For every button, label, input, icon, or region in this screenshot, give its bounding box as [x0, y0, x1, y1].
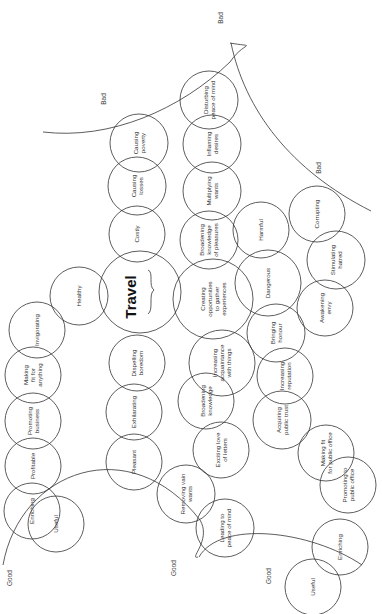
node-label: Useful — [309, 578, 316, 596]
region-label-bad-right: Bad — [315, 162, 322, 174]
node-pleasant: Pleasant — [106, 434, 162, 490]
node-label: Healthy — [75, 285, 82, 307]
node-label: Dispellingboredom — [130, 349, 144, 376]
center-circle — [99, 251, 181, 333]
node-useful-left: Useful — [28, 496, 84, 552]
node-awakening-envy: Awakeningenvy — [297, 280, 353, 336]
node-label: Inflamingdesires — [205, 131, 219, 157]
region-label-bad-top-left: Bad — [100, 93, 107, 105]
node-exhilarating: Exhilarating — [106, 384, 162, 440]
travel-mind-map: CausingpovertyCausinglossesCostlyHealthy… — [0, 0, 382, 614]
node-label: Exciting loveof letters — [214, 432, 228, 467]
node-label: Bringinghonour — [269, 321, 283, 344]
node-label: Leading topeace of mind — [218, 508, 232, 547]
node-label: Increasingacquaintancewith things — [211, 344, 232, 381]
node-leading-to-peace-of-mind: Leading topeace of mind — [196, 499, 254, 557]
node-enriching-right: Enriching — [312, 519, 368, 575]
node-acquiring-public-trust: Acquiringpublic trust — [253, 391, 311, 449]
node-corrupting: Corrupting — [289, 186, 345, 242]
node-label: Causinglosses — [130, 174, 144, 197]
node-label: Profitable — [29, 452, 36, 479]
node-label: Making fitfor public office — [319, 432, 333, 474]
node-profitable: Profitable — [5, 438, 61, 494]
region-labels-layer: BadBadBadGoodGoodGood — [6, 12, 322, 586]
node-label: Useful — [52, 515, 59, 533]
node-label: Acquiringpublic trust — [275, 405, 289, 435]
node-costly: Costly — [109, 206, 165, 262]
region-label-good-middle: Good — [170, 560, 177, 576]
node-label: Pleasant — [130, 450, 137, 474]
node-label: Promoting topublic office — [341, 467, 355, 503]
node-broadening-knowledge: Broadeningknowledge — [178, 373, 234, 429]
node-promoting-business: Promotingbusiness — [5, 393, 61, 449]
node-creating-opportunities: Creatingopportunitiesto gatherexperience… — [173, 259, 253, 339]
center-title: Travel — [122, 275, 139, 318]
brace-icon — [148, 270, 154, 314]
node-increasing-reputation: Increasingreputation — [257, 348, 313, 404]
nodes-layer: CausingpovertyCausinglossesCostlyHealthy… — [4, 71, 376, 614]
node-label: Creatingopportunitiesto gatherexperience… — [199, 281, 227, 316]
node-label: Stimulatinghatred — [329, 244, 343, 275]
region-label-bad-top-right: Bad — [217, 12, 224, 24]
node-removing-vain-wants: Removing vainwants — [157, 465, 215, 523]
node-stimulating-hatred: Stimulatinghatred — [307, 231, 365, 289]
node-dangerous: Dangerous — [235, 250, 301, 316]
region-label-good-left: Good — [6, 570, 13, 586]
bad-boundary-arc-right — [231, 43, 371, 211]
node-label: Increasingreputation — [278, 361, 292, 390]
node-invigorating: Invigorating — [9, 302, 65, 358]
node-label: Broadeningknowledge — [199, 385, 213, 417]
node-dispelling-boredom: Dispellingboredom — [109, 335, 165, 391]
mind-map-canvas: CausingpovertyCausinglossesCostlyHealthy… — [0, 0, 382, 614]
node-label: Makingfit foranything — [22, 363, 43, 387]
node-label: Awakeningenvy — [318, 292, 332, 323]
node-label: Promotingbusiness — [26, 406, 40, 435]
bad-boundary-arc-top-right — [230, 43, 246, 62]
node-useful-right: Useful — [285, 559, 341, 614]
node-label: Causingpoverty — [132, 131, 146, 154]
node-label: Disturbingpeace of mind — [202, 80, 216, 119]
node-label: Corrupting — [313, 199, 320, 228]
node-label: Broadeningknowledgeof pleasures — [198, 223, 219, 257]
node-label: Enriching — [336, 534, 343, 560]
node-making-fit-for-anything: Makingfit foranything — [5, 347, 61, 403]
node-label: Harmful — [257, 219, 264, 241]
node-inflaming-desires: Inflamingdesires — [183, 115, 241, 173]
node-label: Dangerous — [264, 268, 271, 298]
node-label: Multiplyingwants — [205, 176, 219, 206]
node-promoting-to-public-office: Promoting topublic office — [320, 457, 376, 513]
node-label: Exhilarating — [130, 395, 137, 428]
node-bringing-honour: Bringinghonour — [247, 304, 305, 362]
node-label: Costly — [133, 225, 140, 243]
center-node-travel: Travel — [99, 251, 181, 333]
node-label: Invigorating — [33, 313, 40, 346]
region-label-good-right: Good — [265, 568, 272, 584]
node-harmful: Harmful — [233, 202, 289, 258]
